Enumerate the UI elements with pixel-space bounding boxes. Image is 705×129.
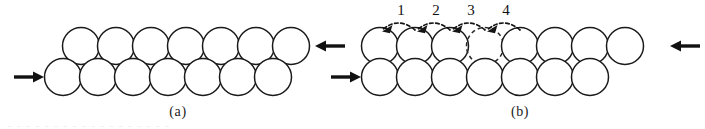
figure-root: _ _ _ _ _ _ _ _ _ _ _ _ _ _ _ _ _ _(a)12… bbox=[0, 0, 705, 129]
atom-circle bbox=[220, 59, 257, 96]
panel-a-right-load-arrow bbox=[315, 40, 345, 51]
panel-caption-a: (a) bbox=[169, 104, 186, 120]
panel-b-bottom-row bbox=[362, 59, 609, 96]
panel-b-right-load-arrow bbox=[670, 40, 700, 51]
atom-circle bbox=[115, 59, 152, 96]
scan-artifact-text: _ _ _ _ _ _ _ _ _ _ _ _ _ _ _ _ _ _ bbox=[7, 120, 171, 128]
left-load-arrow-head bbox=[33, 71, 44, 82]
atom-circle bbox=[607, 28, 644, 65]
right-load-arrow-head bbox=[315, 40, 326, 51]
hop-label-4: 4 bbox=[502, 2, 510, 18]
atom-circle bbox=[362, 59, 399, 96]
panel-b-top-row bbox=[362, 28, 644, 65]
atom-circle bbox=[467, 59, 504, 96]
atom-circle bbox=[80, 59, 117, 96]
right-load-arrow-head bbox=[670, 40, 681, 51]
panel-a: (a) bbox=[14, 28, 345, 121]
atom-circle bbox=[432, 59, 469, 96]
panel-caption-b: (b) bbox=[511, 104, 529, 120]
panel-b-left-load-arrow bbox=[331, 71, 361, 82]
left-load-arrow-head bbox=[350, 71, 361, 82]
panel-b: 1234(b) bbox=[331, 2, 700, 120]
atom-circle bbox=[185, 59, 222, 96]
lattice-diagram: _ _ _ _ _ _ _ _ _ _ _ _ _ _ _ _ _ _(a)12… bbox=[0, 0, 705, 129]
hop-label-1: 1 bbox=[397, 2, 405, 18]
atom-circle bbox=[150, 59, 187, 96]
panel-a-left-load-arrow bbox=[14, 71, 44, 82]
atom-circle bbox=[537, 59, 574, 96]
atom-circle bbox=[572, 59, 609, 96]
atom-circle bbox=[502, 59, 539, 96]
hop-label-2: 2 bbox=[432, 2, 440, 18]
atom-circle bbox=[45, 59, 82, 96]
hop-label-3: 3 bbox=[467, 2, 475, 18]
atom-circle bbox=[255, 59, 292, 96]
atom-circle bbox=[397, 59, 434, 96]
